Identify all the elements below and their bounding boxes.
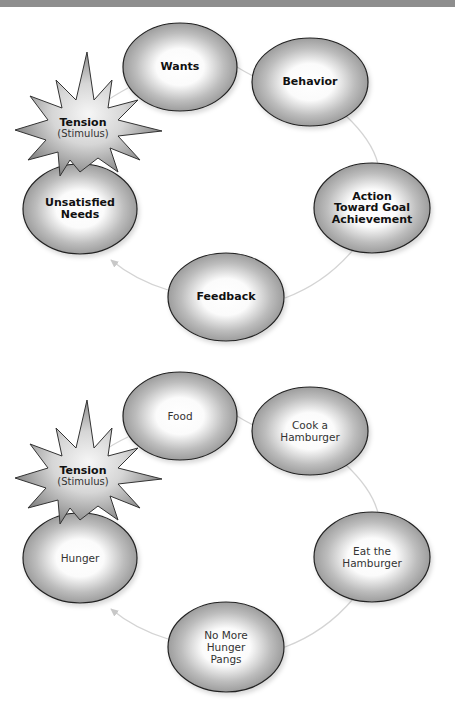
node-label: Eat the Hamburger <box>342 545 401 569</box>
node-food: Food <box>123 372 237 460</box>
connector-wants-behavior <box>237 67 253 76</box>
tension-label: Tension (Stimulus) <box>48 465 118 487</box>
node-label: Hunger <box>61 552 100 564</box>
connector-action-feedback <box>285 250 353 298</box>
node-label: Feedback <box>197 291 256 303</box>
node-label: Cook a Hamburger <box>280 419 339 443</box>
tension-title: Tension <box>48 465 118 477</box>
tension-label: Tension (Stimulus) <box>48 117 118 139</box>
node-label: Unsatisfied Needs <box>45 197 115 220</box>
connector-eat-nomore <box>285 599 353 647</box>
tension-subtitle: (Stimulus) <box>48 477 118 488</box>
node-feedback: Feedback <box>168 253 284 341</box>
connector-food-cook <box>237 416 253 425</box>
connector-nomore-hunger-arrow <box>111 609 168 639</box>
node-label: Food <box>167 410 192 422</box>
tension-subtitle: (Stimulus) <box>48 129 118 140</box>
node-hunger: Hunger <box>23 513 137 603</box>
tension-title: Tension <box>48 117 118 129</box>
node-behavior: Behavior <box>252 38 368 126</box>
node-unsatisfied-needs: Unsatisfied Needs <box>23 164 137 254</box>
node-label: Action Toward Goal Achievement <box>332 191 413 226</box>
node-cook-hamburger: Cook a Hamburger <box>252 387 368 475</box>
node-wants: Wants <box>123 23 237 111</box>
node-label: Wants <box>161 61 200 73</box>
node-label: Behavior <box>282 76 337 88</box>
node-eat-hamburger: Eat the Hamburger <box>314 512 430 602</box>
node-action-toward-goal: Action Toward Goal Achievement <box>314 163 430 253</box>
connector-feedback-needs-arrow <box>111 260 168 290</box>
node-no-more-hunger-pangs: No More Hunger Pangs <box>168 602 284 692</box>
node-label: No More Hunger Pangs <box>204 629 248 665</box>
